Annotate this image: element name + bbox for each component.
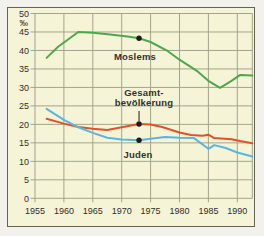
- marker-dot-2: [136, 138, 141, 143]
- y-tick-label-0: 0: [24, 194, 29, 204]
- x-tick-label-1965: 1965: [83, 206, 103, 216]
- y-tick-label-10: 10: [19, 157, 29, 167]
- series-label-gesamtbevoelkerung: Gesamt- bevölkerung: [104, 88, 184, 108]
- x-tick-label-1990: 1990: [227, 206, 247, 216]
- series-label-juden: Juden: [108, 150, 168, 160]
- x-tick-label-1970: 1970: [112, 206, 132, 216]
- x-tick-label-1980: 1980: [169, 206, 189, 216]
- x-tick-label-1975: 1975: [141, 206, 161, 216]
- y-tick-label-5: 5: [24, 175, 29, 185]
- y-tick-label-40: 40: [19, 46, 29, 56]
- y-tick-label-15: 15: [19, 138, 29, 148]
- y-axis-unit: ‰: [20, 18, 29, 28]
- y-tick-label-20: 20: [19, 120, 29, 130]
- marker-dot-0: [136, 36, 141, 41]
- y-tick-label-30: 30: [19, 83, 29, 93]
- marker-dot-1: [136, 121, 141, 126]
- x-tick-label-1955: 1955: [25, 206, 45, 216]
- y-tick-label-45: 45: [19, 27, 29, 37]
- chart-figure: 05101520253035404550‰1955196019651970197…: [0, 0, 264, 236]
- x-tick-label-1985: 1985: [198, 206, 218, 216]
- series-label-moslems: Moslems: [100, 52, 170, 62]
- x-tick-label-1960: 1960: [54, 206, 74, 216]
- y-tick-label-25: 25: [19, 101, 29, 111]
- y-tick-label-35: 35: [19, 64, 29, 74]
- chart-canvas: 05101520253035404550‰1955196019651970197…: [0, 0, 264, 236]
